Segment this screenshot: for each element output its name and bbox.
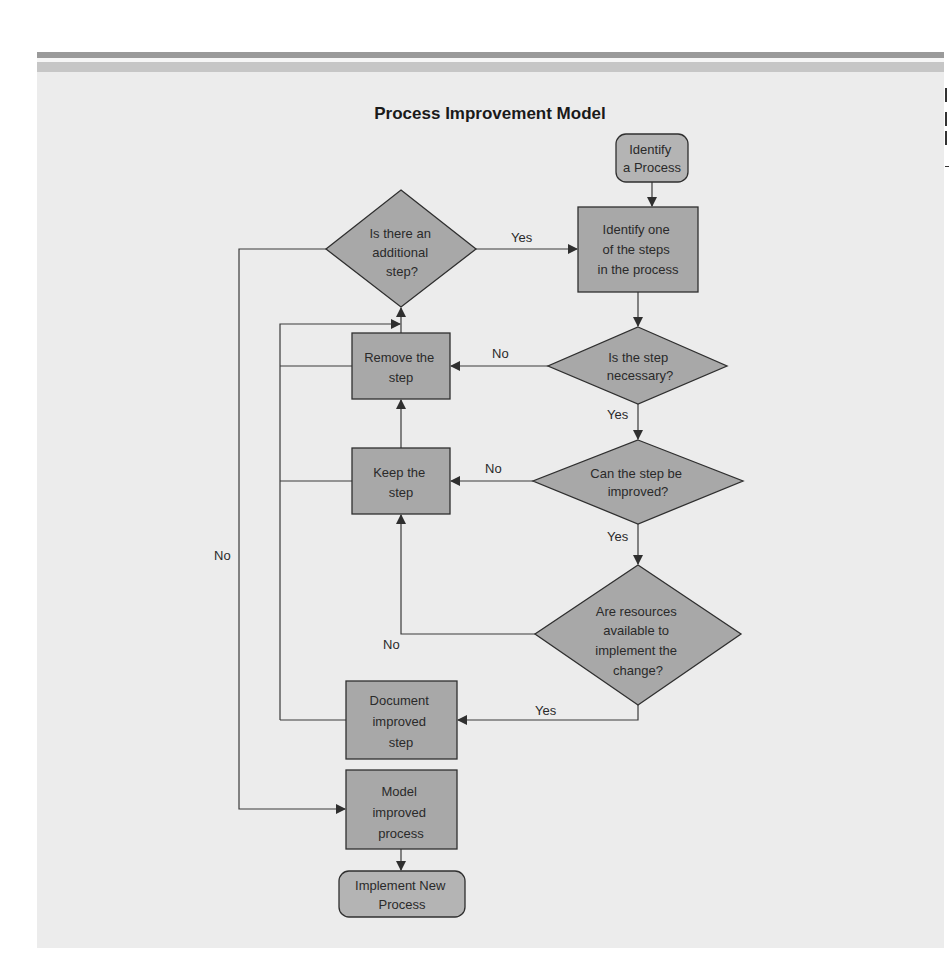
edge-label-yes: Yes [607, 529, 629, 544]
edge-label-no: No [214, 548, 231, 563]
node-step-necessary: Is the step necessary? [548, 327, 727, 404]
flowchart: Process Improvement Model Yes No Yes No … [0, 0, 949, 969]
edge-label-yes: Yes [535, 703, 557, 718]
edge-label-yes: Yes [607, 407, 629, 422]
node-identify-a-process: Identify a Process [616, 134, 688, 182]
edge-additional-no [239, 249, 345, 809]
process-shape [352, 448, 450, 514]
node-step-improvable: Can the step be improved? [533, 440, 743, 524]
decision-shape [548, 327, 727, 404]
edge-label-yes: Yes [511, 230, 533, 245]
node-resources-available: Are resources available to implement the… [535, 565, 741, 705]
node-model-process: Model improved process [346, 770, 457, 849]
diagram-title: Process Improvement Model [374, 104, 605, 123]
edge-resources-no [401, 515, 535, 634]
node-additional-step: Is there an additional step? [326, 190, 476, 307]
edge-label-no: No [383, 637, 400, 652]
edge-label-no: No [492, 346, 509, 361]
process-shape [352, 333, 450, 399]
edge-label-no: No [485, 461, 502, 476]
node-keep-step: Keep the step [352, 448, 450, 514]
node-identify-step: Identify one of the steps in the process [578, 207, 698, 292]
node-document-step: Document improved step [346, 681, 457, 759]
node-label: Identify one of the steps in the process [598, 222, 679, 277]
node-implement-new-process: Implement New Process [339, 871, 465, 917]
node-remove-step: Remove the step [352, 333, 450, 399]
decision-shape [533, 440, 743, 524]
